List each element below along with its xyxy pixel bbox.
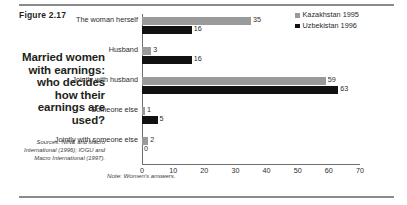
- bar-group: The woman herself3516: [142, 14, 360, 44]
- x-tick-label: 60: [325, 166, 333, 175]
- category-label: Jointly with husband: [34, 76, 138, 85]
- bar-value-label: 59: [328, 76, 336, 84]
- bar: [142, 26, 192, 34]
- chart-note: Note: Women's answers.: [107, 172, 176, 179]
- bar-value-label: 16: [194, 25, 202, 33]
- bar-group: Husband316: [142, 44, 360, 74]
- bar-value-label: 3: [153, 46, 157, 54]
- x-tick-label: 20: [200, 166, 208, 175]
- bar-group: Jointly with husband5963: [142, 74, 360, 104]
- bar-value-label: 5: [160, 115, 164, 123]
- bar-value-label: 1: [147, 106, 151, 114]
- bar-value-label: 16: [194, 55, 202, 63]
- bar: [142, 56, 192, 64]
- x-tick-label: 70: [356, 166, 364, 175]
- top-divider: [19, 4, 394, 6]
- category-label: Jointly with someone else: [34, 136, 138, 145]
- bar: [142, 86, 338, 94]
- bar: [142, 77, 326, 85]
- figure-headline: Married women with earnings: who decides…: [19, 51, 105, 127]
- bottom-divider: [19, 196, 394, 198]
- category-label: Someone else: [34, 106, 138, 115]
- x-tick-label: 30: [231, 166, 239, 175]
- bar: [142, 47, 151, 55]
- category-label: Husband: [34, 46, 138, 55]
- x-tick-label: 40: [263, 166, 271, 175]
- bar-value-label: 2: [150, 136, 154, 144]
- bar-chart: Kazakhstan 1995 Uzbekistan 1996 The woma…: [107, 10, 395, 170]
- bar-value-label: 0: [144, 145, 148, 153]
- x-tick-label: 50: [294, 166, 302, 175]
- bar-value-label: 35: [253, 16, 261, 24]
- bar-group: Jointly with someone else20: [142, 134, 360, 164]
- bar: [142, 107, 145, 115]
- x-axis-line: [142, 164, 360, 165]
- plot-area: The woman herself3516Husband316Jointly w…: [142, 14, 360, 164]
- bar-value-label: 63: [340, 85, 348, 93]
- category-label: The woman herself: [34, 16, 138, 25]
- figure-container: Figure 2.17 Married women with earnings:…: [0, 0, 407, 205]
- bar: [142, 116, 158, 124]
- bar-group: Someone else15: [142, 104, 360, 134]
